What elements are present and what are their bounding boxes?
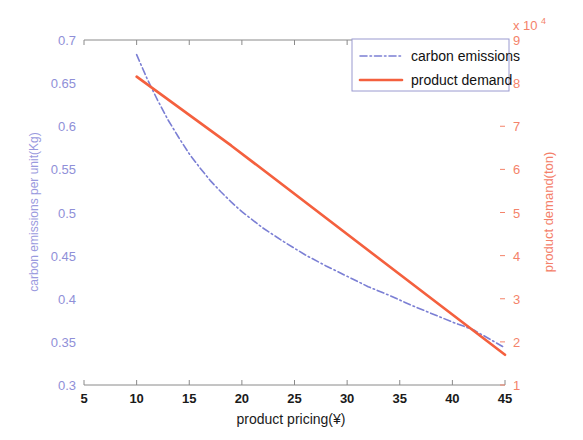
- y-tick-label-right: 2: [513, 335, 520, 350]
- x-tick-label: 15: [182, 391, 196, 406]
- y-tick-label-left: 0.6: [58, 119, 76, 134]
- y-tick-label-right: 5: [513, 206, 520, 221]
- y-tick-label-right: 3: [513, 292, 520, 307]
- x-tick-label: 5: [80, 391, 87, 406]
- y-tick-label-right: 4: [513, 249, 520, 264]
- y-tick-label-left: 0.45: [51, 249, 76, 264]
- y-tick-label-right: 1: [513, 378, 520, 393]
- y-tick-label-left: 0.4: [58, 292, 76, 307]
- chart-legend: carbon emissionsproduct demand: [352, 39, 520, 91]
- legend-label-0: carbon emissions: [411, 48, 520, 64]
- y-tick-label-left: 0.5: [58, 206, 76, 221]
- y-tick-label-left: 0.55: [51, 162, 76, 177]
- y-axis-right-label: product demand(ton): [541, 152, 556, 273]
- x-tick-label: 30: [340, 391, 354, 406]
- x-tick-label: 45: [498, 391, 512, 406]
- x-tick-label: 35: [393, 391, 407, 406]
- x-tick-label: 20: [235, 391, 249, 406]
- y-axis-right-exponent-power: 4: [541, 16, 546, 26]
- y-tick-label-left: 0.3: [58, 378, 76, 393]
- y-axis-left-label: carbon emissions per unit(Kg): [27, 132, 41, 291]
- y-tick-label-left: 0.65: [51, 76, 76, 91]
- y-tick-label-right: 7: [513, 119, 520, 134]
- chart-figure: 51015202530354045 0.30.350.40.450.50.550…: [0, 0, 583, 440]
- y-tick-label-right: 6: [513, 162, 520, 177]
- y-tick-label-right: 8: [513, 76, 520, 91]
- legend-label-1: product demand: [411, 72, 512, 88]
- y-tick-label-right: 9: [513, 33, 520, 48]
- y-tick-label-left: 0.35: [51, 335, 76, 350]
- x-tick-label: 40: [445, 391, 459, 406]
- x-tick-label: 25: [287, 391, 301, 406]
- x-tick-label: 10: [129, 391, 143, 406]
- x-axis-label: product pricing(¥): [237, 411, 346, 427]
- y-tick-label-left: 0.7: [58, 33, 76, 48]
- y-axis-right-exponent: x 10: [513, 18, 538, 33]
- line-chart: 51015202530354045 0.30.350.40.450.50.550…: [0, 0, 583, 440]
